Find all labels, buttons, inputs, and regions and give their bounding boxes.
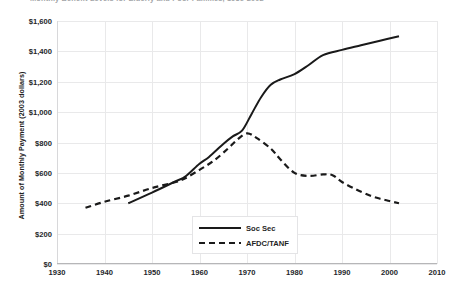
x-tick-label: 1950 — [132, 268, 172, 277]
legend-item-afdc-tanf: AFDC/TANF — [193, 236, 299, 250]
y-tick-label: $200 — [8, 229, 52, 238]
chart-container: Monthly Benefit Levels for Elderly and P… — [0, 0, 451, 300]
chart-legend: Soc Sec AFDC/TANF — [192, 216, 298, 254]
y-tick-label: $1,000 — [8, 108, 52, 117]
gridline-vertical — [437, 21, 438, 264]
series-line-afdc-tanf — [86, 133, 400, 207]
x-tick-label: 1940 — [85, 268, 125, 277]
y-tick-label: $1,600 — [8, 17, 52, 26]
x-tick-label: 2000 — [370, 268, 410, 277]
x-tick-label: 1970 — [227, 268, 267, 277]
legend-line-dashed-icon — [199, 238, 241, 248]
y-tick-label: $1,400 — [8, 47, 52, 56]
legend-label-soc-sec: Soc Sec — [246, 224, 276, 233]
x-tick-label: 1980 — [275, 268, 315, 277]
x-tick-label: 1990 — [322, 268, 362, 277]
x-tick-label: 1930 — [37, 268, 77, 277]
legend-item-soc-sec: Soc Sec — [193, 221, 299, 235]
x-tick-label: 1960 — [180, 268, 220, 277]
legend-line-solid-icon — [199, 223, 241, 233]
gridline-horizontal — [57, 264, 437, 265]
legend-label-afdc-tanf: AFDC/TANF — [246, 239, 289, 248]
y-tick-label: $1,200 — [8, 77, 52, 86]
y-tick-label: $600 — [8, 168, 52, 177]
y-tick-label: $400 — [8, 199, 52, 208]
y-tick-label: $800 — [8, 138, 52, 147]
series-line-soc-sec — [128, 36, 399, 203]
x-tick-label: 2010 — [417, 268, 451, 277]
